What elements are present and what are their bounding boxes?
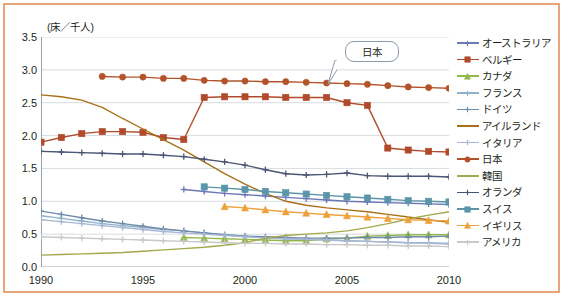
callout-label: 日本	[362, 44, 382, 59]
legend-item-8[interactable]: 韓国	[457, 168, 561, 185]
legend-marker-icon	[457, 187, 479, 199]
x-tick-label: 2005	[327, 274, 367, 286]
legend-item-11[interactable]: イギリス	[457, 218, 561, 235]
y-tick-label: 3.5	[11, 31, 37, 43]
legend-item-12[interactable]: アメリカ	[457, 234, 561, 251]
y-tick-label: 2.5	[11, 97, 37, 109]
legend-label: 日本	[479, 154, 502, 165]
legend-marker-icon	[457, 70, 479, 82]
legend-marker-icon	[457, 236, 479, 248]
y-tick-label: 1.0	[11, 195, 37, 207]
legend: オーストラリアベルギーカナダフランスドイツアイルランドイタリア日本韓国オランダス…	[457, 35, 561, 251]
y-tick-label: 3.0	[11, 64, 37, 76]
legend-label: イギリス	[479, 221, 522, 232]
legend-label: ベルギー	[479, 55, 522, 66]
legend-marker-icon	[457, 37, 479, 49]
legend-label: オーストラリア	[479, 38, 551, 49]
legend-item-5[interactable]: アイルランド	[457, 118, 561, 135]
plot-area	[41, 37, 449, 267]
legend-marker-icon	[457, 153, 479, 165]
legend-marker-icon	[457, 220, 479, 232]
legend-label: フランス	[479, 88, 522, 99]
chart-svg	[41, 37, 449, 267]
x-tick-label: 1990	[21, 274, 61, 286]
legend-label: アイルランド	[479, 121, 541, 132]
x-tick-label: 2010	[429, 274, 469, 286]
legend-marker-icon	[457, 170, 479, 182]
legend-item-10[interactable]: スイス	[457, 201, 561, 218]
legend-marker-icon	[457, 87, 479, 99]
legend-item-4[interactable]: ドイツ	[457, 101, 561, 118]
chart-frame: (床／千人) 0.00.51.01.52.02.53.03.5 19901995…	[3, 3, 560, 293]
x-tick-label: 1995	[123, 274, 163, 286]
legend-item-1[interactable]: ベルギー	[457, 52, 561, 69]
legend-item-7[interactable]: 日本	[457, 151, 561, 168]
legend-item-3[interactable]: フランス	[457, 85, 561, 102]
y-tick-label: 0.0	[11, 261, 37, 273]
y-tick-label: 0.5	[11, 228, 37, 240]
legend-item-6[interactable]: イタリア	[457, 135, 561, 152]
legend-marker-icon	[457, 54, 479, 66]
legend-label: スイス	[479, 204, 512, 215]
legend-marker-icon	[457, 137, 479, 149]
legend-marker-icon	[457, 203, 479, 215]
legend-label: 韓国	[479, 171, 502, 182]
y-tick-label: 1.5	[11, 162, 37, 174]
legend-label: アメリカ	[479, 237, 521, 248]
legend-label: ドイツ	[479, 104, 512, 115]
legend-item-0[interactable]: オーストラリア	[457, 35, 561, 52]
legend-marker-icon	[457, 104, 479, 116]
legend-item-9[interactable]: オランダ	[457, 184, 561, 201]
x-tick-label: 2000	[225, 274, 265, 286]
legend-marker-icon	[457, 120, 479, 132]
legend-label: イタリア	[479, 138, 522, 149]
legend-label: オランダ	[479, 187, 522, 198]
y-tick-label: 2.0	[11, 130, 37, 142]
callout-japan: 日本	[345, 41, 399, 62]
legend-label: カナダ	[479, 71, 512, 82]
legend-item-2[interactable]: カナダ	[457, 68, 561, 85]
unit-label: (床／千人)	[47, 19, 94, 34]
